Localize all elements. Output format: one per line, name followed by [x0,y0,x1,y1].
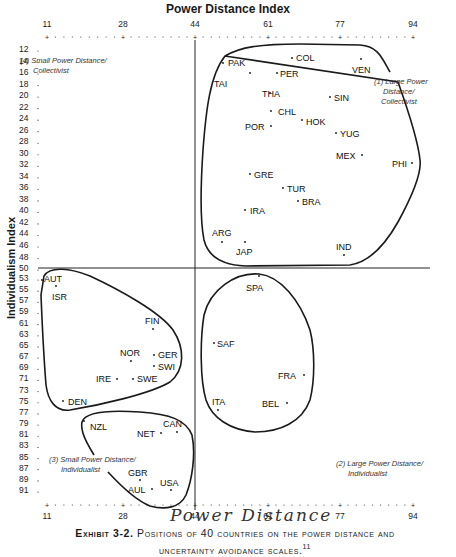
axis-dot [37,120,38,121]
axis-dot [154,504,155,505]
axis-dot [97,36,98,37]
data-point-label: GBR [128,468,148,478]
data-point-label: IRA [250,206,265,216]
data-point-label: SWI [158,362,175,372]
axis-dot [130,504,131,505]
axis-dot [37,480,38,481]
data-point [270,110,272,112]
axis-dot [89,504,90,505]
data-point-label: AUL [128,485,146,495]
axis-dot [348,504,349,505]
axis-plus: + [338,502,342,509]
axis-dot [146,36,147,37]
axis-dot [37,279,38,280]
axis-dot [37,223,38,224]
axis-dot [235,36,236,37]
x-tick-label: 11 [43,19,52,29]
data-point-label: GER [158,350,178,360]
quadrant-3-label-line1: (3) Small Power Distance/ [49,455,137,464]
y-tick-label: 61 [19,318,29,328]
data-point-label: NOR [120,348,141,358]
y-tick-label: 28 [19,136,29,146]
axis-dot [211,36,212,37]
data-point [41,279,43,281]
axis-dot [251,36,252,37]
y-tick-label: 81 [19,429,29,439]
data-point-label: YUG [340,129,360,139]
axis-plus: + [266,34,270,41]
y-tick-label: 18 [19,79,29,89]
y-tick-label: 87 [19,463,29,473]
axis-dot [37,346,38,347]
axis-dot [37,424,38,425]
axis-dot [72,36,73,37]
quadrant-3-label-line2: Individualist [61,465,101,474]
y-tick-label: 73 [19,385,29,395]
data-point-label: SAF [217,339,235,349]
axis-dot [227,36,228,37]
axis-dot [37,189,38,190]
quadrant-labels: (4) Small Power Distance/ Collectivist (… [20,56,428,478]
x-tick-label: 77 [335,511,345,521]
quadrant-1-label-line1: (1) Large Power [374,77,428,86]
axis-dot [291,36,292,37]
axis-dot [72,504,73,505]
axis-dot [307,36,308,37]
data-point-label: NZL [90,422,107,432]
axis-dot [178,36,179,37]
data-point [62,400,64,402]
axis-dot [55,36,56,37]
data-point [270,125,272,127]
axis-dot [55,504,56,505]
axis-dot [331,36,332,37]
axis-dot [259,36,260,37]
y-tick-label: 69 [19,362,29,372]
axis-dot [404,36,405,37]
data-point [244,241,246,243]
data-point [361,154,363,156]
data-point-label: CAN [163,419,182,429]
data-point [258,275,260,277]
axis-dot [37,380,38,381]
y-tick-label: 30 [19,148,29,158]
axis-dot [89,36,90,37]
data-point-label: BEL [262,399,279,409]
axis-dot [37,258,38,259]
y-tick-label: 46 [19,240,29,250]
data-point-label: POR [245,122,265,132]
axis-dot [106,36,107,37]
caption-exhibit-number: Exhibit 3-2. [75,527,133,539]
axis-dot [364,504,365,505]
axis-dot [37,166,38,167]
axis-plus: + [45,34,49,41]
quadrant-1-label-line3: Collectivist [381,97,418,106]
data-point-label: AUT [44,274,63,284]
data-point [249,173,251,175]
axis-dot [37,413,38,414]
y-tick-label: 67 [19,351,29,361]
axis-dot [63,504,64,505]
data-point-label: SWE [137,374,158,384]
y-tick-label: 59 [19,306,29,316]
axis-dot [162,504,163,505]
axis-dot [315,36,316,37]
y-tick-label: 85 [19,452,29,462]
data-point [221,241,223,243]
quadrant-2-label-line2: Individualist [348,469,388,478]
x-tick-label: 94 [408,511,418,521]
axis-dot [37,108,38,109]
data-point-label: JAP [236,247,253,257]
y-tick-label: 63 [19,329,29,339]
y-tick-label: 38 [19,194,29,204]
data-point-label: PHI [392,159,407,169]
axis-dot [63,36,64,37]
x-tick-label: 77 [335,19,345,29]
axis-dot [380,36,381,37]
axis-dot [80,504,81,505]
data-point [282,187,284,189]
cluster-outlines [41,44,420,508]
y-tick-label: 71 [19,373,29,383]
data-point-label: ITA [212,397,225,407]
data-point-label: TUR [287,184,306,194]
y-tick-label: 77 [19,407,29,417]
